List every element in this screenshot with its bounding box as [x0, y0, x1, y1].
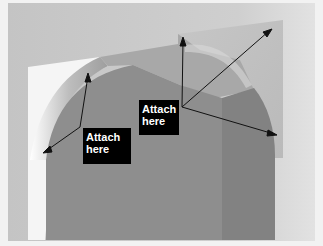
callout-label-center: Attach here	[139, 100, 179, 135]
callout-line2: here	[142, 115, 176, 127]
arch-diagram: Attach here Attach here	[0, 0, 323, 246]
callout-line1: Attach	[142, 103, 176, 115]
callout-line2: here	[86, 143, 128, 155]
arch-right-face	[222, 88, 275, 240]
callout-line1: Attach	[86, 131, 128, 143]
callout-label-left: Attach here	[83, 128, 131, 164]
